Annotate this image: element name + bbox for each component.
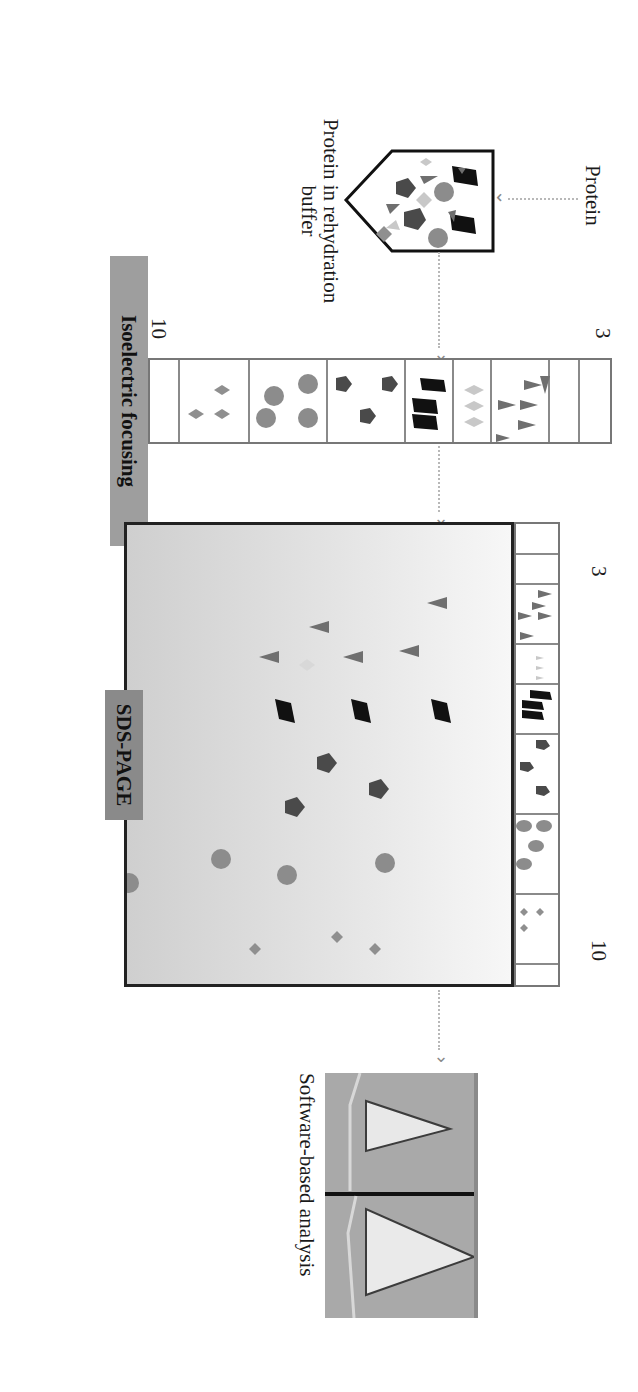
connector-strip-to-gel [438, 446, 440, 512]
analysis-label: Software-based analysis [296, 1073, 318, 1277]
rehydration-label-line2: buffer [298, 85, 320, 337]
ief-banner: Isoelectric focusing [110, 256, 148, 546]
workflow-diagram: Protein ⌄ Protein in rehydration buffer … [0, 0, 638, 1392]
sds-ph-end: 10 [588, 940, 610, 961]
connector-protein-to-bag [508, 198, 578, 200]
arrow-right-icon: ⌄ [433, 1047, 448, 1065]
connector-gel-to-analysis [438, 990, 440, 1050]
sds-page-banner: SDS-PAGE [105, 690, 143, 820]
sds-ph-start: 3 [588, 566, 610, 577]
sds-page-gel [124, 522, 514, 987]
gel-spots [127, 525, 511, 984]
ief-strip [148, 358, 612, 444]
ief-bands [150, 360, 610, 442]
analysis-3d-peaks [325, 1073, 478, 1318]
analysis-image [325, 1073, 478, 1318]
rehydration-bag [342, 148, 496, 254]
ief-ph-start: 3 [592, 328, 614, 339]
rehydration-label: Protein in rehydration buffer [298, 85, 342, 337]
rehydration-label-line1: Protein in rehydration [320, 85, 342, 337]
sds-ief-strip [514, 522, 560, 987]
ief-ph-end: 10 [148, 318, 170, 339]
protein-label: Protein [582, 165, 604, 226]
connector-bag-to-strip [438, 252, 440, 348]
arrow-down-icon: ⌄ [494, 190, 512, 205]
